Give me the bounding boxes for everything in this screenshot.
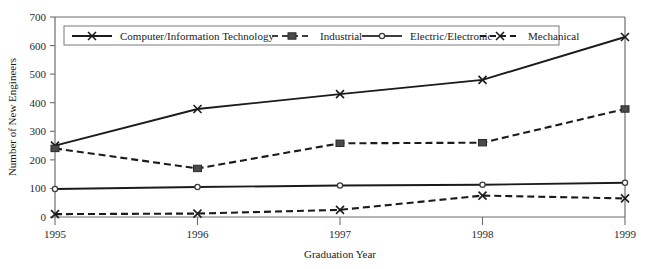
x-tick-label: 1999	[614, 228, 637, 240]
line-chart: 0100200300400500600700 19951996199719981…	[0, 0, 654, 269]
data-point-marker	[288, 33, 296, 39]
legend-label: Mechanical	[528, 30, 579, 42]
data-point-marker	[480, 182, 485, 187]
data-point-marker	[51, 145, 59, 151]
y-axis-title: Number of New Engineers	[6, 58, 18, 176]
data-point-marker	[52, 186, 57, 191]
y-tick-label: 700	[30, 11, 47, 23]
legend-label: Industrial	[320, 30, 362, 42]
chart-container: 0100200300400500600700 19951996199719981…	[0, 0, 654, 269]
data-point-marker	[194, 165, 202, 171]
series-3	[52, 180, 627, 191]
series-line	[55, 196, 625, 215]
y-tick-label: 600	[30, 40, 47, 52]
y-tick-label: 400	[30, 97, 47, 109]
data-point-marker	[622, 180, 627, 185]
y-tick-label: 0	[41, 211, 47, 223]
data-point-marker	[621, 106, 629, 112]
data-point-marker	[336, 140, 344, 146]
x-tick-label: 1997	[329, 228, 352, 240]
series-layer	[51, 33, 629, 218]
y-tick-label: 200	[30, 154, 47, 166]
data-point-marker	[479, 140, 487, 146]
chart-legend: Computer/Information TechnologyIndustria…	[64, 26, 579, 45]
data-point-marker	[195, 184, 200, 189]
x-tick-label: 1996	[187, 228, 210, 240]
legend-label: Computer/Information Technology	[120, 30, 274, 42]
series-line	[55, 109, 625, 168]
x-axis-ticks: 19951996199719981999	[44, 217, 637, 240]
series-4	[51, 192, 629, 219]
x-tick-label: 1995	[44, 228, 67, 240]
x-axis-title: Graduation Year	[304, 248, 376, 260]
data-point-marker	[337, 183, 342, 188]
y-axis-ticks: 0100200300400500600700	[30, 11, 56, 223]
y-tick-label: 100	[30, 182, 47, 194]
x-tick-label: 1998	[472, 228, 495, 240]
y-tick-label: 500	[30, 68, 47, 80]
series-1	[51, 33, 629, 150]
y-tick-label: 300	[30, 125, 47, 137]
series-2	[51, 106, 629, 172]
data-point-marker	[379, 33, 384, 38]
